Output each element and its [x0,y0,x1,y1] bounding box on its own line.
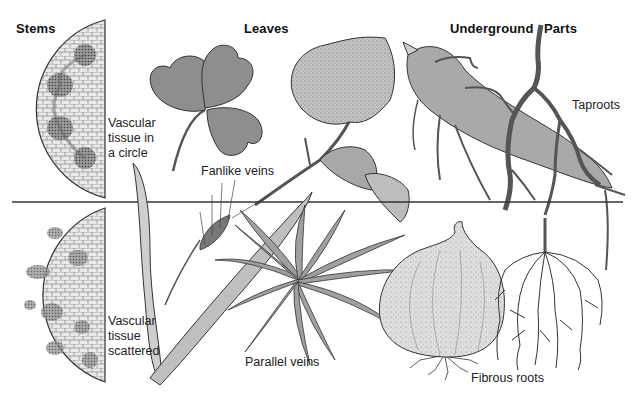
label-fibrous-roots: Fibrous roots [471,371,544,386]
label-line: tissue [108,329,159,344]
heading-stems: Stems [16,21,56,36]
label-taproots: Taproots [572,98,620,113]
label-vascular-circle: Vascular tissue in a circle [108,116,156,161]
label-line: a circle [108,146,156,161]
label-fanlike-veins: Fanlike veins [201,164,274,179]
label-line: scattered [108,344,159,359]
dicot-stem-cross-section [36,20,105,198]
label-line: Vascular [108,116,156,131]
label-line: tissue in [108,131,156,146]
label-line: Vascular [108,314,159,329]
onion-bulb [379,222,504,380]
onion-fibrous-roots [410,356,478,380]
label-parallel-veins: Parallel veins [245,355,319,370]
monocot-stem-cross-section [24,208,105,382]
label-vascular-scattered: Vascular tissue scattered [108,314,159,359]
illustrations [0,0,636,400]
clover-leaf [150,45,262,171]
heading-parts: Parts [544,21,577,36]
heading-underground: Underground [450,21,533,36]
fibrous-root-system [495,218,602,370]
heading-leaves: Leaves [244,21,289,36]
broadleaf-branch [255,37,409,222]
plant-comparison-diagram: Stems Leaves Underground Parts Vascular … [0,0,636,400]
